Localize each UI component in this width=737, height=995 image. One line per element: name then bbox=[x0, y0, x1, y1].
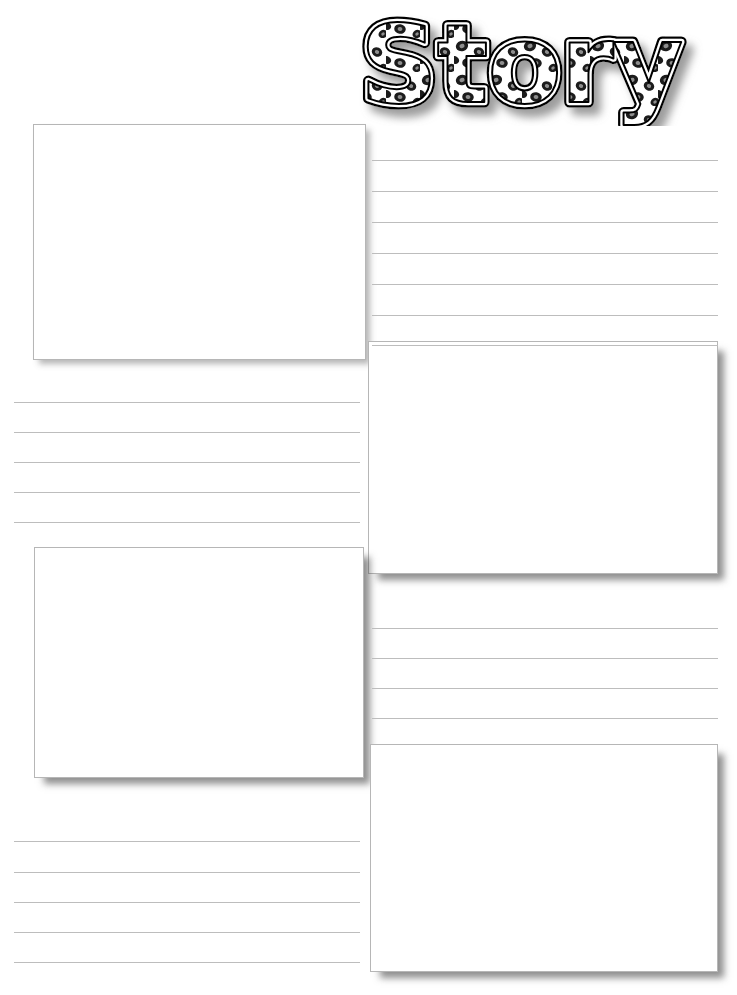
title-letters: Story Story Story bbox=[360, 4, 682, 126]
writing-line[interactable] bbox=[14, 462, 360, 463]
writing-line[interactable] bbox=[372, 718, 718, 719]
writing-line[interactable] bbox=[372, 688, 718, 689]
writing-line[interactable] bbox=[372, 160, 718, 161]
writing-line[interactable] bbox=[372, 658, 718, 659]
title-outline: Story bbox=[360, 4, 682, 126]
page-title: Story Story Story bbox=[352, 4, 737, 126]
writing-line[interactable] bbox=[14, 962, 360, 963]
picture-box-4[interactable] bbox=[370, 744, 718, 972]
writing-line[interactable] bbox=[372, 253, 718, 254]
writing-line[interactable] bbox=[14, 522, 360, 523]
picture-box-2[interactable] bbox=[368, 341, 718, 574]
writing-line[interactable] bbox=[14, 841, 360, 842]
writing-line[interactable] bbox=[372, 284, 718, 285]
writing-line[interactable] bbox=[372, 628, 718, 629]
title-artwork: Story Story Story bbox=[352, 4, 737, 126]
writing-line[interactable] bbox=[372, 191, 718, 192]
worksheet-page: Story Story Story bbox=[0, 0, 737, 995]
writing-line[interactable] bbox=[372, 222, 718, 223]
writing-line[interactable] bbox=[14, 492, 360, 493]
writing-line[interactable] bbox=[14, 872, 360, 873]
picture-box-3[interactable] bbox=[34, 547, 364, 778]
writing-lines-right-middle[interactable] bbox=[372, 618, 718, 730]
writing-lines-right-top[interactable] bbox=[372, 150, 718, 350]
writing-line[interactable] bbox=[14, 902, 360, 903]
writing-line[interactable] bbox=[14, 932, 360, 933]
writing-lines-left-middle[interactable] bbox=[14, 392, 360, 534]
title-inner-outline: Story bbox=[360, 4, 682, 126]
writing-lines-left-bottom[interactable] bbox=[14, 831, 360, 973]
picture-box-1[interactable] bbox=[33, 124, 366, 360]
writing-line[interactable] bbox=[372, 315, 718, 316]
writing-line[interactable] bbox=[14, 402, 360, 403]
writing-line[interactable] bbox=[14, 432, 360, 433]
title-fill: Story bbox=[360, 4, 682, 126]
writing-line[interactable] bbox=[372, 345, 718, 346]
